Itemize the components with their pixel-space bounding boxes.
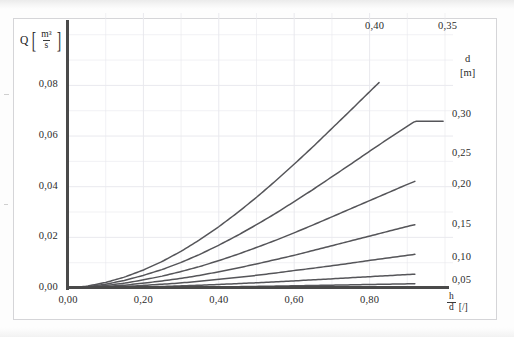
y-axis-title: Q [ m³ s ]	[20, 30, 63, 51]
x-axis-numerator: h	[447, 292, 456, 302]
curve-0-35	[68, 121, 443, 288]
y-tick-label: 0,02	[12, 230, 58, 241]
scan-speck	[4, 94, 9, 95]
scan-artifact-top	[0, 0, 514, 9]
curve-label-0-20: 0,20	[452, 178, 471, 189]
x-tick-label: 0,00	[45, 294, 91, 305]
curve-label-0-30: 0,30	[452, 108, 471, 119]
y-tick-label: 0,06	[12, 129, 58, 140]
x-tick-label: 0,80	[347, 294, 393, 305]
curve-label-0-10: 0,10	[452, 251, 471, 262]
legend: d [m]	[460, 52, 475, 80]
y-tick-label: 0,08	[12, 78, 58, 89]
x-axis-title: h d [/]	[446, 292, 468, 313]
x-axis-line	[67, 286, 449, 289]
y-axis-line	[66, 20, 69, 290]
unit-numerator: m³	[39, 30, 53, 40]
legend-unit: [m]	[460, 66, 475, 80]
curve-0-40	[68, 83, 379, 288]
x-tick-label: 0,60	[271, 294, 317, 305]
curve-0-30	[68, 181, 415, 288]
curve-label-0-15: 0,15	[452, 218, 471, 229]
unit-denominator: s	[43, 40, 51, 51]
x-axis-denominator: d	[447, 302, 456, 313]
curve-label-0-05: 0,05	[452, 274, 471, 285]
y-tick-label: 0,00	[12, 281, 58, 292]
plot-area	[68, 17, 445, 288]
scan-artifact-bottom	[0, 327, 514, 337]
x-axis-unit: [/]	[459, 302, 468, 313]
x-tick-label: 0,20	[120, 294, 166, 305]
bracket-right-icon: ]	[56, 30, 60, 50]
scan-speck	[4, 204, 8, 205]
x-tick-label: 0,40	[196, 294, 242, 305]
unit-fraction: m³ s	[39, 30, 53, 51]
curve-group	[68, 17, 445, 288]
x-axis-fraction: h d	[447, 292, 456, 313]
y-axis-variable: Q	[20, 34, 28, 46]
chart-page: Q [ m³ s ] h d [/] d [m] 0,000,020,040,0…	[0, 0, 514, 337]
y-tick-label: 0,04	[12, 180, 58, 191]
curve-label-0-35: 0,35	[438, 20, 457, 31]
curve-label-0-40: 0,40	[365, 20, 384, 31]
y-axis-unit: [ m³ s ]	[30, 30, 62, 51]
bracket-left-icon: [	[32, 30, 36, 50]
curve-label-0-25: 0,25	[452, 147, 471, 158]
legend-title: d	[460, 52, 475, 66]
